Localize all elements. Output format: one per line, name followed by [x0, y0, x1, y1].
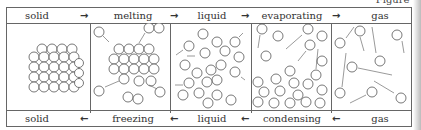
particle-panels [7, 23, 411, 113]
left-arrow-icon: ← [332, 111, 340, 126]
right-arrow-icon: → [332, 8, 340, 23]
state-gas-bottom: gas [347, 111, 413, 126]
panel-gas [331, 23, 413, 113]
right-arrow-icon: → [170, 8, 178, 23]
states-of-matter-diagram: solid → melting → liquid → evaporating →… [6, 7, 412, 127]
state-solid-top: solid [7, 8, 67, 23]
left-arrow-icon: ← [80, 111, 88, 126]
state-gas-top: gas [347, 8, 413, 23]
panel-evaporating [251, 23, 331, 113]
state-liquid-bottom: liquid [187, 111, 237, 126]
process-condensing: condensing [252, 111, 332, 126]
state-solid-bottom: solid [7, 111, 67, 126]
melting-particles-icon [91, 23, 171, 113]
bottom-process-row: solid ← freezing ← liquid ← condensing ←… [7, 110, 411, 126]
state-liquid-top: liquid [187, 8, 237, 23]
panel-melting [90, 23, 170, 113]
gas-particles-icon [332, 23, 414, 113]
evaporating-particles-icon [252, 23, 332, 113]
liquid-particles-icon [171, 23, 252, 113]
right-arrow-icon: → [80, 8, 88, 23]
left-arrow-icon: ← [170, 111, 178, 126]
process-evaporating: evaporating [252, 8, 332, 23]
process-freezing: freezing [102, 111, 164, 126]
process-melting: melting [102, 8, 164, 23]
top-process-row: solid → melting → liquid → evaporating →… [7, 8, 411, 24]
solid-particles-icon [7, 23, 90, 113]
panel-solid [7, 23, 90, 113]
panel-liquid [170, 23, 251, 113]
left-arrow-icon: ← [241, 111, 249, 126]
page-edge-shadow [413, 0, 421, 130]
right-arrow-icon: → [241, 8, 249, 23]
